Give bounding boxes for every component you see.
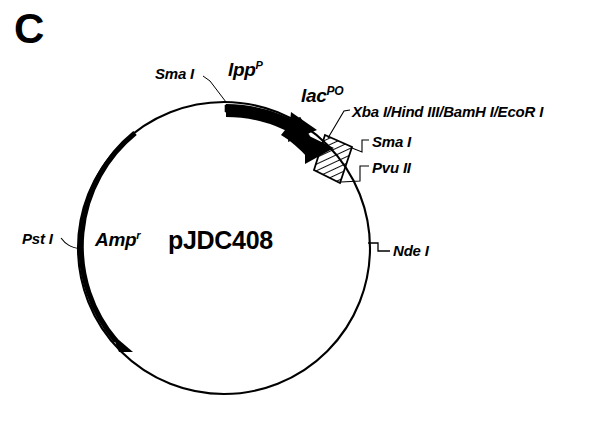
plasmid-map-figure: C pJDC408 Sma I lppP lacPO Xba I/Hind II… (0, 0, 608, 432)
restriction-site-label-mcs-enzymes: Xba I/Hind III/BamH I/EcoR I (352, 104, 543, 119)
amp-superscript: r (136, 229, 140, 241)
mcs-sites-leader-line (328, 110, 350, 138)
restriction-site-label-nde1: Nde I (393, 243, 429, 258)
restriction-site-label-sma1-mcs: Sma I (372, 134, 411, 149)
plasmid-diagram-svg (0, 0, 608, 432)
gene-label-lpp-promoter: lppP (228, 60, 263, 79)
lpp-superscript: P (256, 59, 263, 71)
restriction-site-label-sma1-upstream: Sma I (155, 66, 194, 81)
amp-base-text: Amp (95, 229, 136, 250)
nde1-leader-line (368, 243, 390, 251)
panel-label: C (14, 8, 44, 50)
lac-base-text: lac (301, 85, 327, 106)
lpp-base-text: lpp (228, 59, 256, 80)
gene-label-amp-resistance: Ampr (95, 230, 141, 249)
lac-superscript: PO (327, 84, 344, 98)
sma1-mcs-leader-line (352, 140, 369, 152)
sma1-upstream-leader-line (203, 76, 226, 102)
restriction-site-label-pst1: Pst I (22, 231, 53, 246)
amp-arc-arrowhead (112, 334, 133, 352)
restriction-site-label-pvu2: Pvu II (372, 160, 411, 175)
plasmid-name-label: pJDC408 (168, 228, 273, 253)
gene-label-lac-promoter-operator: lacPO (301, 85, 343, 105)
